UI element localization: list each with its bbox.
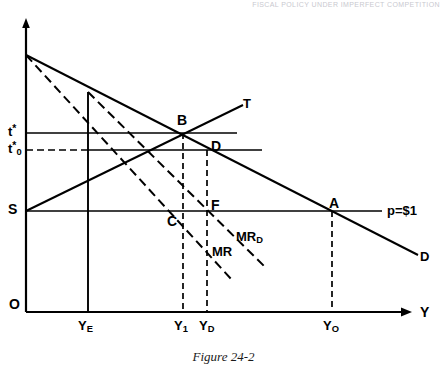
x-tick-y-1: Y1 bbox=[174, 319, 188, 334]
curve-label-T: T bbox=[243, 97, 251, 110]
y-axis bbox=[22, 18, 30, 312]
x-tick-y-1-base: Y bbox=[174, 318, 183, 333]
curve-label-MR-D-base: MR bbox=[236, 229, 256, 244]
curve-label-MR-D: MRD bbox=[236, 230, 263, 245]
figure-caption: Figure 24-2 bbox=[0, 349, 447, 365]
y-tick-t-zero: t*0 bbox=[8, 141, 22, 157]
x-tick-y-d: YD bbox=[199, 319, 214, 334]
marginal-revenue-curve-MR bbox=[26, 55, 232, 280]
point-label-F: F bbox=[211, 198, 220, 212]
point-label-D: D bbox=[211, 139, 221, 153]
supply-intercept-label-S: S bbox=[8, 202, 17, 216]
price-line-label: p=$1 bbox=[387, 204, 417, 217]
x-axis-label: Y bbox=[420, 305, 429, 319]
x-tick-y-d-sub: D bbox=[208, 324, 215, 334]
curve-label-MR: MR bbox=[212, 245, 232, 258]
economics-diagram bbox=[0, 0, 447, 374]
x-tick-y-e-sub: E bbox=[87, 324, 93, 334]
origin-label: O bbox=[9, 297, 20, 311]
x-tick-y-o-base: Y bbox=[323, 318, 332, 333]
point-label-C: C bbox=[167, 214, 177, 228]
x-tick-y-o-sub: O bbox=[332, 324, 339, 334]
x-tick-y-e: YE bbox=[78, 319, 93, 334]
point-label-B: B bbox=[177, 113, 187, 127]
point-label-A: A bbox=[329, 196, 339, 210]
figure-page: FISCAL POLICY UNDER IMPERFECT COMPETITIO… bbox=[0, 0, 447, 374]
y-tick-t-zero-sub: 0 bbox=[16, 147, 21, 157]
x-tick-y-o: YO bbox=[323, 319, 339, 334]
y-tick-t-star: t* bbox=[8, 124, 16, 138]
x-tick-y-e-base: Y bbox=[78, 318, 87, 333]
x-tick-y-1-sub: 1 bbox=[183, 324, 188, 334]
y-tick-t-star-sup: * bbox=[12, 123, 16, 134]
x-axis bbox=[26, 308, 412, 317]
x-tick-y-d-base: Y bbox=[199, 318, 208, 333]
curve-label-MR-D-sub: D bbox=[256, 235, 263, 245]
tax-line-T bbox=[26, 105, 243, 211]
curve-label-D: D bbox=[420, 250, 429, 263]
